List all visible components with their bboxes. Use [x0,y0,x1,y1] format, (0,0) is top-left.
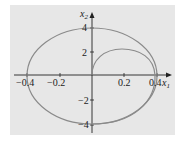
svg-text:−0.4: −0.4 [16,77,34,88]
svg-text:−0.2: −0.2 [47,77,65,88]
svg-text:4: 4 [82,22,87,33]
phase-plot: −0.4 −0.2 0.2 0.4 4 2 −2 −4 x2 x1 [0,0,183,141]
svg-text:0.2: 0.2 [118,77,131,88]
svg-text:2: 2 [82,47,87,58]
svg-text:−4: −4 [78,119,89,130]
svg-text:−2: −2 [78,95,89,106]
svg-text:0.4: 0.4 [149,77,162,88]
